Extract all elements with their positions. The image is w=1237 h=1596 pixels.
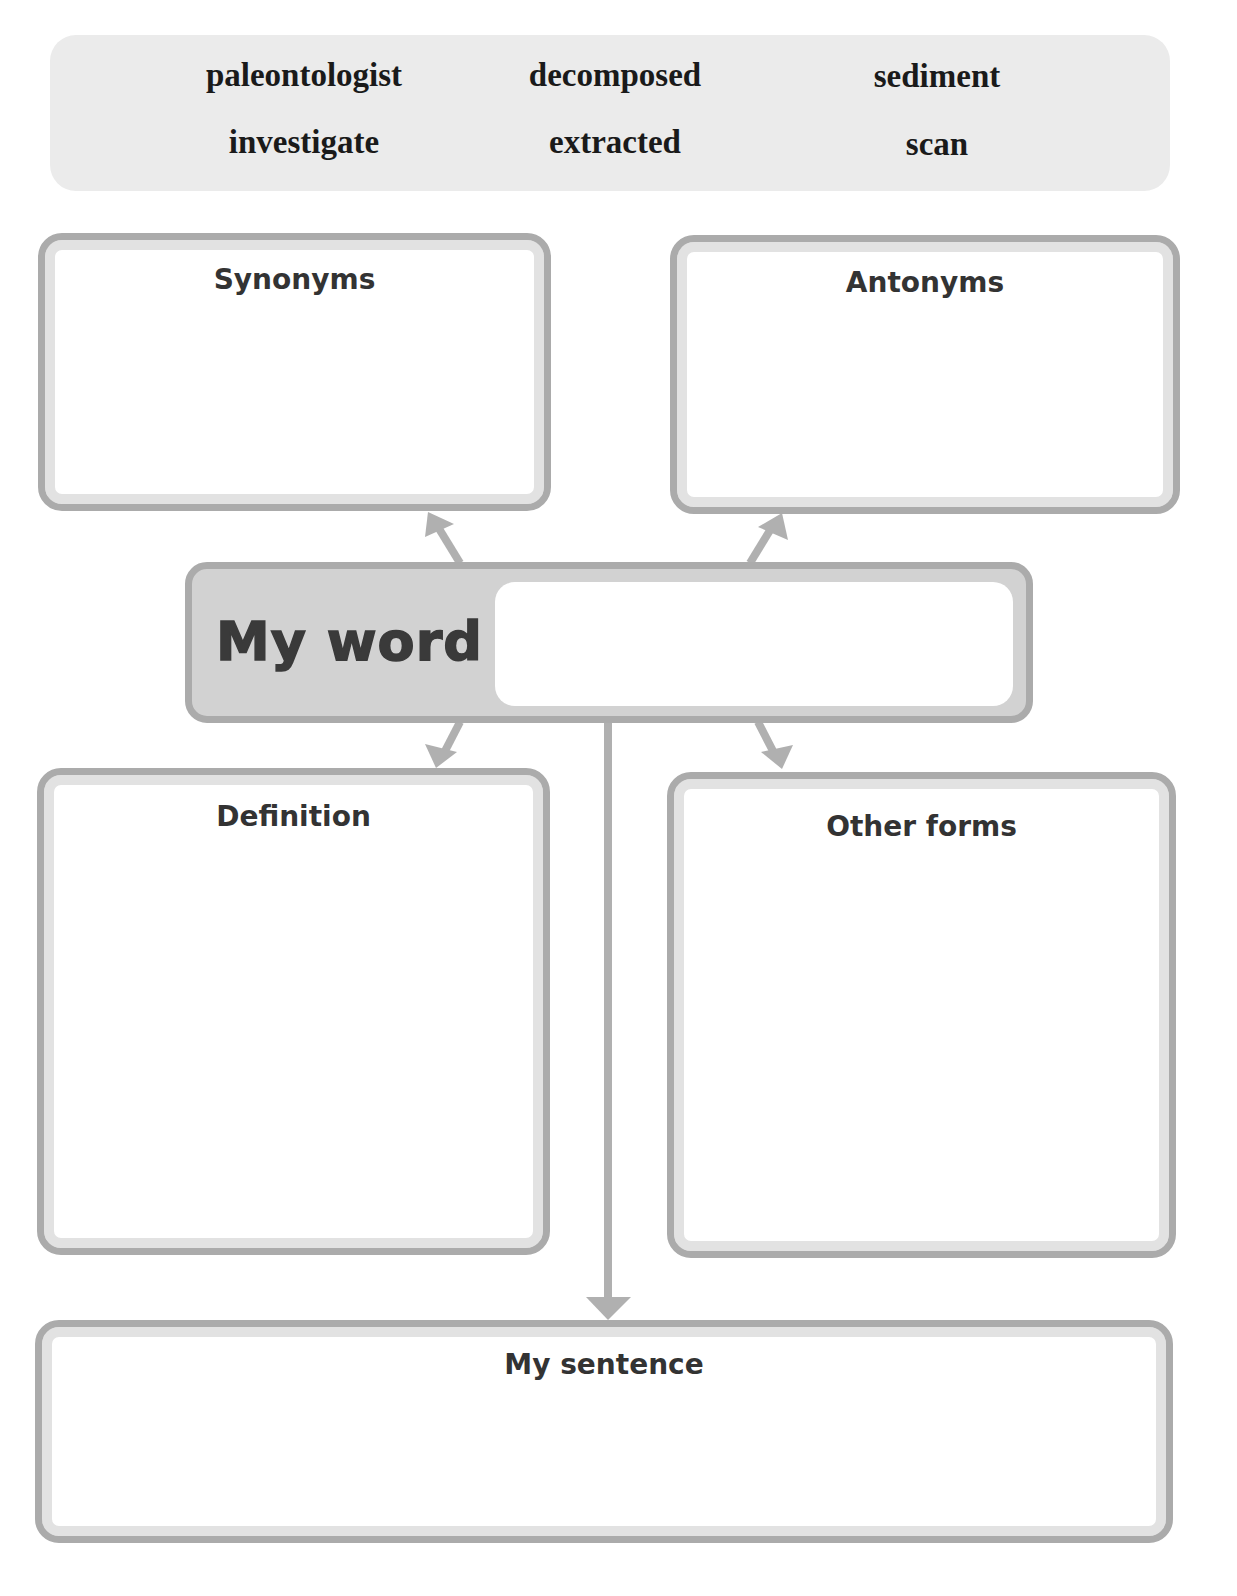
word-bank: paleontologist decomposed sediment inves… <box>50 35 1170 191</box>
definition-box: Definition <box>37 768 550 1255</box>
synonyms-title: Synonyms <box>45 266 544 294</box>
synonyms-input[interactable] <box>65 310 528 484</box>
other-forms-box: Other forms <box>667 772 1176 1258</box>
my-sentence-box: My sentence <box>35 1320 1173 1543</box>
my-sentence-input[interactable] <box>64 1395 1148 1517</box>
definition-title: Definition <box>44 803 543 831</box>
word-bank-item: paleontologist <box>206 59 402 92</box>
arrow-down-icon <box>586 722 631 1320</box>
arrow-up-right-icon <box>750 513 788 563</box>
synonyms-box: Synonyms <box>38 233 551 511</box>
definition-input[interactable] <box>64 850 527 1224</box>
my-word-label: My word <box>216 615 483 669</box>
my-word-box: My word <box>185 562 1033 723</box>
other-forms-input[interactable] <box>694 859 1153 1228</box>
word-bank-item: scan <box>906 128 968 161</box>
word-bank-item: extracted <box>549 126 681 159</box>
arrow-down-left-icon <box>425 722 460 768</box>
word-bank-item: decomposed <box>529 59 701 92</box>
antonyms-box: Antonyms <box>670 235 1180 514</box>
my-word-input[interactable] <box>495 582 1013 706</box>
arrow-up-left-icon <box>425 512 460 563</box>
word-bank-item: investigate <box>229 126 379 159</box>
word-bank-item: sediment <box>874 60 1001 93</box>
my-sentence-title: My sentence <box>42 1351 1166 1379</box>
arrow-down-right-icon <box>758 722 793 769</box>
other-forms-title: Other forms <box>674 813 1169 841</box>
antonyms-input[interactable] <box>697 312 1157 486</box>
antonyms-title: Antonyms <box>677 269 1173 297</box>
